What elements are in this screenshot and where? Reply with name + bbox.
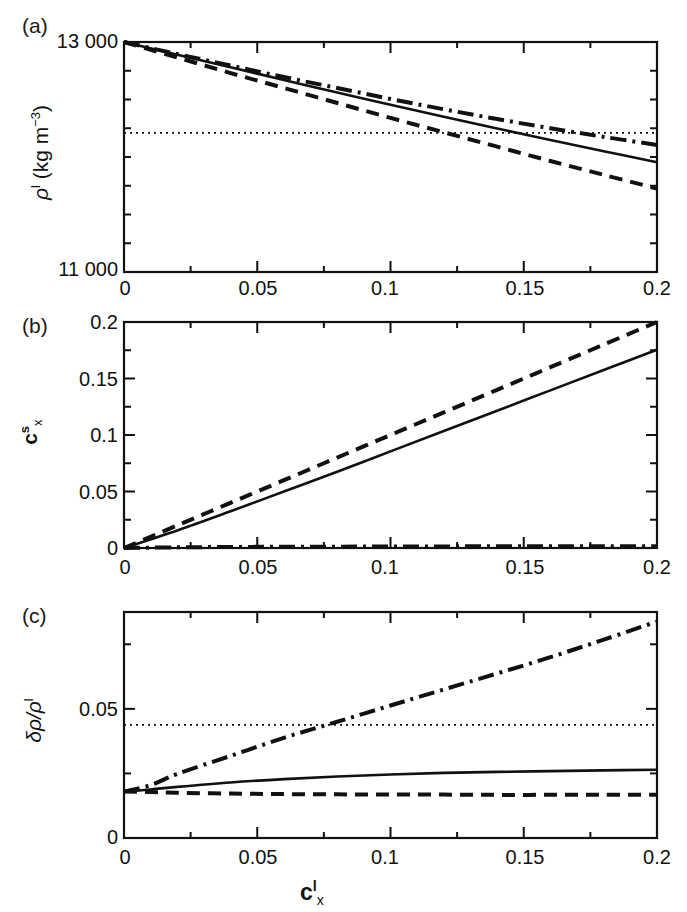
panel-c: (c) δρ/ρl 0.05 0 0 0.05 0.1 0.15 0.2 clx	[0, 600, 687, 912]
figure-root: (a) ρl (kg m−3) 13 000 11 000 0 0.05 0.1…	[0, 0, 687, 912]
curve-c-dash-dot	[124, 622, 657, 792]
curve-b-solid	[124, 350, 657, 548]
panel-c-plot-area	[0, 600, 687, 912]
curve-a-solid	[124, 42, 657, 162]
panel-a-plot-area	[0, 0, 687, 300]
panel-a: (a) ρl (kg m−3) 13 000 11 000 0 0.05 0.1…	[0, 0, 687, 300]
curve-c-solid	[124, 770, 657, 792]
panel-b-plot-area	[0, 300, 687, 600]
panel-b: (b) csx 0.2 0.15 0.1 0.05 0 0 0.05 0.1 0…	[0, 300, 687, 600]
curve-b-dashed	[124, 322, 657, 548]
curve-a-dashed	[124, 42, 657, 189]
curve-c-dashed	[124, 792, 657, 795]
curve-a-dash-dot	[124, 42, 657, 145]
